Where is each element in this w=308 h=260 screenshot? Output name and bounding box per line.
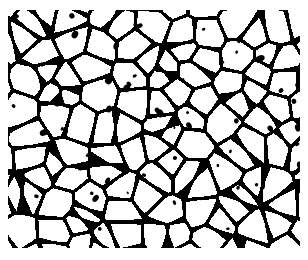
grain-structure bbox=[8, 10, 300, 248]
micrograph-image bbox=[8, 10, 300, 248]
blank-margin bbox=[0, 250, 308, 260]
